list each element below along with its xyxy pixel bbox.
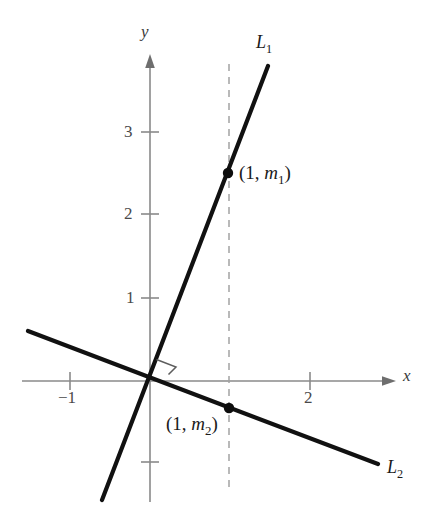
coordinate-plane-graphic [0,0,430,528]
point-label-m2-prefix: (1, [166,413,191,434]
point-label-m1-suffix: ) [285,162,291,183]
x-tick-label-2: 2 [304,388,313,408]
point-label-m2: (1, m2) [166,413,218,439]
x-axis-label: x [403,366,411,386]
y-axis-group [141,54,159,502]
y-axis-label: y [141,22,149,42]
point-label-m2-variable: m [191,413,205,434]
x-axis-arrowhead [382,376,396,386]
y-tick-label-1: 1 [126,288,135,308]
point-marker-m1 [223,168,233,178]
point-label-m2-suffix: ) [212,413,218,434]
x-axis-group [22,372,396,390]
y-tick-label-2: 2 [124,204,133,224]
line-label-L2-subscript: 2 [397,467,403,481]
line-label-L1: L1 [256,32,272,57]
y-tick-label-3: 3 [124,122,133,142]
line-label-L1-subscript: 1 [266,42,272,56]
line-label-L2: L2 [387,457,403,482]
point-marker-m2 [224,403,234,413]
point-label-m1-variable: m [264,162,278,183]
figure-canvas: y x −1 2 3 2 1 L1 L2 (1, m1) (1, m2) [0,0,430,528]
line-L2 [28,331,378,464]
point-label-m1-prefix: (1, [239,162,264,183]
point-label-m1: (1, m1) [239,162,291,188]
right-angle-marker [157,360,177,375]
line-label-L2-base: L [387,457,397,477]
line-label-L1-base: L [256,32,266,52]
x-tick-label-neg1: −1 [58,388,76,408]
y-axis-arrowhead [145,54,155,68]
